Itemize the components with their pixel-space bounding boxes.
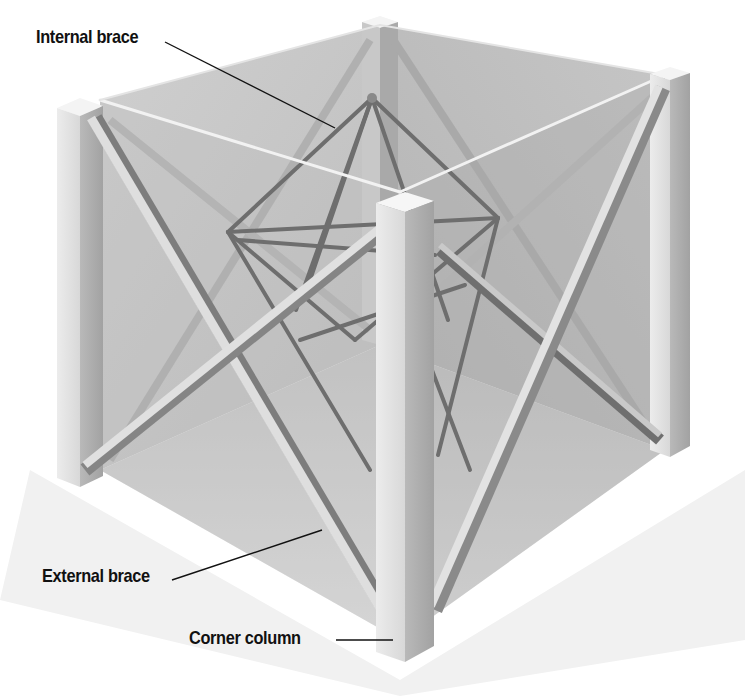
front-corner-column: [376, 192, 434, 662]
left-corner-column: [57, 98, 103, 487]
braced-frame-diagram: [0, 0, 745, 696]
label-external-brace: External brace: [42, 565, 150, 587]
right-corner-column: [650, 67, 690, 457]
label-corner-column: Corner column: [189, 627, 301, 649]
internal-brace-hub: [367, 93, 377, 103]
label-internal-brace: Internal brace: [36, 26, 138, 48]
